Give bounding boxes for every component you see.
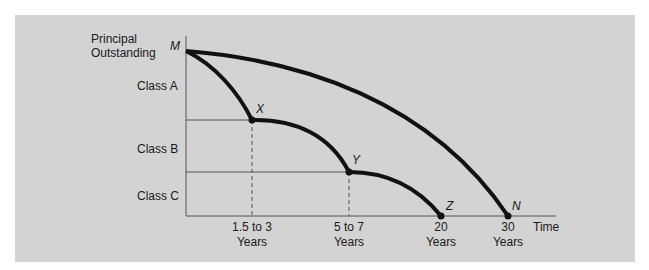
x-axis-label: Time (533, 220, 559, 234)
x-tick-3-line2: Years (406, 235, 476, 250)
x-tick-4-line2: Years (473, 235, 543, 250)
x-tick-1-line2: Years (217, 235, 287, 250)
x-tick-3: 20 Years (406, 220, 476, 250)
point-m-label: M (170, 39, 180, 53)
x-tick-3-line1: 20 (406, 220, 476, 235)
curve-yz (349, 172, 441, 216)
point-z-dot (438, 213, 445, 220)
curve-mx (186, 51, 252, 120)
x-tick-1-line1: 1.5 to 3 (217, 220, 287, 235)
y-axis-label: Principal Outstanding (91, 32, 156, 60)
y-axis-label-line1: Principal (91, 32, 156, 46)
curve-mn (186, 51, 508, 216)
class-c-label: Class C (137, 189, 179, 203)
point-y-dot (346, 169, 353, 176)
point-x-dot (249, 117, 256, 124)
point-n-dot (505, 213, 512, 220)
point-n-label: N (512, 199, 521, 213)
y-axis-label-line2: Outstanding (91, 46, 156, 60)
x-tick-2: 5 to 7 Years (314, 220, 384, 250)
x-tick-2-line1: 5 to 7 (314, 220, 384, 235)
point-x-label: X (256, 102, 264, 116)
class-a-label: Class A (137, 79, 178, 93)
curve-xy (252, 120, 349, 172)
point-y-label: Y (352, 153, 360, 167)
class-b-label: Class B (137, 142, 178, 156)
x-tick-1: 1.5 to 3 Years (217, 220, 287, 250)
point-z-label: Z (446, 199, 453, 213)
x-tick-2-line2: Years (314, 235, 384, 250)
